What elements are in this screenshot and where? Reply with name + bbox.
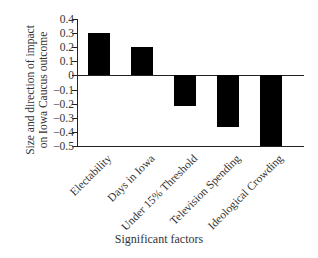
bar-electability [88,33,110,75]
x-tick-label: Under 15% Threshold [119,152,200,233]
y-tick-label: −0.1 [34,84,74,96]
bar-ideological-crowding [260,75,282,146]
bar-television-spending [217,75,239,127]
y-axis-line [77,19,78,147]
x-axis-line [77,146,304,147]
y-tick-label: 0 [34,69,74,81]
y-tick-label: −0.5 [34,140,74,152]
y-tick-label: 0.2 [34,41,74,53]
y-tick-label: 0.3 [34,27,74,39]
x-tick-label: Ideological Crowding [206,152,286,232]
bar-days-in-iowa [131,47,153,75]
y-tick-label: −0.3 [34,112,74,124]
y-tick-label: −0.4 [34,126,74,138]
bar-under-15-threshold [174,75,196,106]
y-tick-label: 0.4 [34,13,74,25]
x-axis-title: Significant factors [0,232,318,247]
y-tick-label: −0.2 [34,98,74,110]
x-tick-label: Electability [68,152,114,198]
y-tick-label: 0.1 [34,55,74,67]
